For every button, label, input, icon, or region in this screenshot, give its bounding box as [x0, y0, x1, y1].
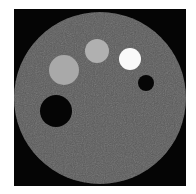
medium-gray-insert	[85, 39, 109, 63]
phantom-body	[14, 12, 186, 184]
large-black-insert	[40, 95, 72, 127]
white-insert	[119, 48, 141, 70]
large-gray-insert	[49, 55, 79, 85]
phantom-image	[0, 0, 196, 194]
small-black-insert	[138, 75, 154, 91]
